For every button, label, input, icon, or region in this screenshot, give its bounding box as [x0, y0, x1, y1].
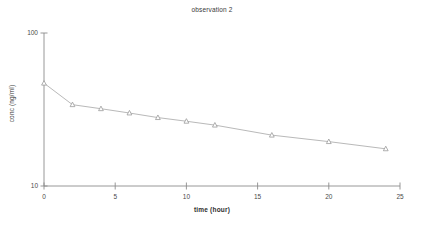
chart-container: observation 2 10100 0510152025 time (hou…	[0, 0, 424, 229]
data-point-marker	[42, 81, 47, 86]
y-tick-label: 100	[0, 29, 38, 36]
x-tick-label: 20	[309, 193, 349, 200]
x-axis-title: time (hour)	[0, 206, 424, 213]
data-point-marker	[70, 102, 75, 107]
series-line	[44, 83, 386, 149]
axes-group	[41, 33, 401, 190]
x-tick-label: 25	[380, 193, 420, 200]
x-tick-label: 15	[238, 193, 278, 200]
x-tick-label: 10	[166, 193, 206, 200]
x-tick-label: 0	[24, 193, 64, 200]
x-tick-label: 5	[95, 193, 135, 200]
y-tick-label: 10	[0, 182, 38, 189]
data-series-group	[42, 81, 389, 151]
y-axis-title: conc (ng/ml)	[8, 69, 15, 139]
